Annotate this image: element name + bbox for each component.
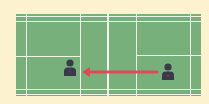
diagram-frame (0, 0, 209, 104)
diagram-overlay (0, 0, 209, 104)
left-player-icon (64, 59, 76, 76)
right-player-icon (162, 63, 174, 80)
arrow-left-icon (82, 67, 157, 77)
